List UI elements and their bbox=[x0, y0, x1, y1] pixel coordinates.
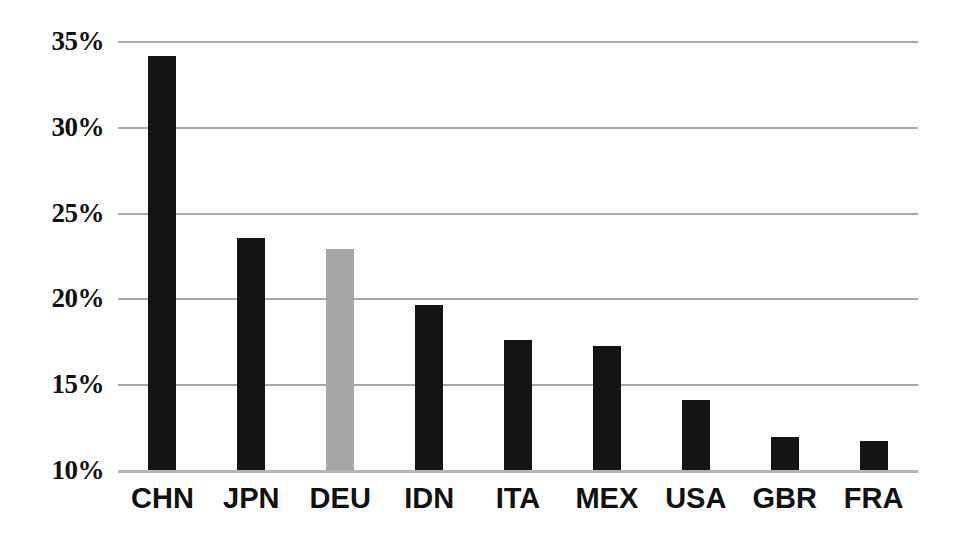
y-axis-tick-label: 20% bbox=[52, 283, 105, 314]
bar-fra bbox=[860, 441, 888, 470]
x-axis-tick-label-gbr: GBR bbox=[752, 482, 816, 515]
x-axis-tick-label-mex: MEX bbox=[575, 482, 638, 515]
plot-area bbox=[118, 41, 918, 470]
x-axis-tick-label-fra: FRA bbox=[844, 482, 904, 515]
y-axis-tick-label: 35% bbox=[52, 26, 105, 57]
y-axis-tick-label: 10% bbox=[52, 455, 105, 486]
bar-usa bbox=[682, 400, 710, 470]
x-axis-labels: CHNJPNDEUIDNITAMEXUSAGBRFRA bbox=[118, 482, 918, 532]
y-axis-tick-label: 30% bbox=[52, 111, 105, 142]
bar-gbr bbox=[771, 437, 799, 470]
x-axis-tick-label-deu: DEU bbox=[310, 482, 371, 515]
bar-jpn bbox=[237, 238, 265, 470]
x-axis-tick-label-jpn: JPN bbox=[223, 482, 279, 515]
bar-idn bbox=[415, 305, 443, 470]
y-axis-tick-label: 15% bbox=[52, 369, 105, 400]
x-axis-tick-label-ita: ITA bbox=[496, 482, 541, 515]
bar-chn bbox=[148, 56, 176, 470]
x-axis-tick-label-idn: IDN bbox=[404, 482, 454, 515]
bar-chart: 10%15%20%25%30%35% CHNJPNDEUIDNITAMEXUSA… bbox=[0, 0, 962, 549]
y-axis-tick-label: 25% bbox=[52, 197, 105, 228]
bar-ita bbox=[504, 340, 532, 470]
bar-mex bbox=[593, 346, 621, 470]
bar-deu bbox=[326, 249, 354, 470]
x-axis-tick-label-chn: CHN bbox=[131, 482, 194, 515]
x-axis-tick-label-usa: USA bbox=[665, 482, 726, 515]
bars-group bbox=[118, 41, 918, 470]
y-axis-labels: 10%15%20%25%30%35% bbox=[0, 0, 118, 549]
axis-baseline bbox=[118, 470, 918, 473]
